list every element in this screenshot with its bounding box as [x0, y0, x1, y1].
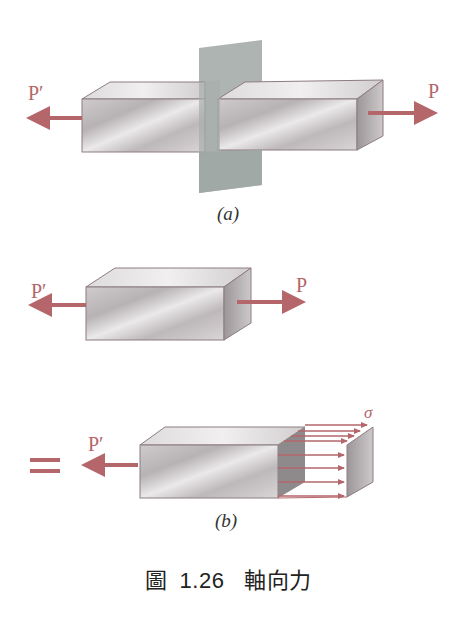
equals-sign-top: [30, 458, 60, 462]
cutting-plane-front: [199, 80, 220, 155]
force-label-right: P: [296, 274, 307, 296]
force-label-left: P′: [31, 280, 47, 302]
equals-sign-bottom: [30, 469, 60, 473]
panel-label-a: (a): [217, 203, 239, 225]
caption-number: 1.26: [180, 568, 225, 593]
panel-middle: P′ P: [31, 268, 307, 340]
force-label-left: P′: [88, 433, 104, 455]
panel-a: P′ P (a): [28, 40, 439, 225]
block-front: [86, 287, 224, 340]
axial-force-diagram: P′ P (a) P′ P: [0, 0, 457, 618]
force-label-right: P: [428, 80, 439, 102]
left-block-top: [82, 82, 205, 99]
cutting-plane-lower: [199, 150, 262, 193]
caption-prefix: 圖: [145, 568, 168, 593]
caption-title: 軸向力: [244, 568, 312, 593]
right-block-front: [218, 99, 357, 150]
right-block-top: [218, 80, 383, 99]
block-top: [86, 268, 251, 287]
left-block-front: [82, 99, 205, 152]
block-top: [140, 427, 305, 445]
figure-caption: 圖1.26軸向力: [0, 562, 457, 594]
force-label-left: P′: [28, 82, 44, 104]
stress-volume-edges: [278, 497, 347, 498]
far-face: [347, 427, 373, 497]
panel-b: P′ σ (b): [30, 403, 373, 532]
block-front: [140, 445, 278, 498]
panel-label-b: (b): [215, 510, 237, 532]
stress-symbol: σ: [364, 403, 373, 422]
